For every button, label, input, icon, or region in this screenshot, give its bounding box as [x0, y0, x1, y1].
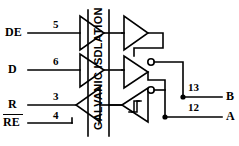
pin-number-13: 13 — [188, 82, 199, 93]
driver-buffer-bubble — [148, 59, 154, 65]
output-label-a: A — [226, 110, 235, 122]
re-overbar — [3, 114, 23, 115]
junction-dot-b — [180, 94, 185, 99]
input-label-de: DE — [5, 26, 22, 38]
receiver-schmitt-body — [122, 88, 148, 122]
input-label-re: RE — [3, 116, 20, 128]
galvanic-isolation-transceiver-diagram: GALVANIC ISDLATION DE D R RE 5 6 3 4 13 … — [0, 0, 239, 146]
pin-number-12: 12 — [188, 102, 199, 113]
enable-buffer-body — [124, 16, 148, 50]
output-label-b: B — [226, 90, 234, 102]
circuit-schematic — [0, 0, 239, 146]
wire-driver-out-a — [148, 72, 165, 117]
junction-dot-a — [162, 114, 167, 119]
input-label-r: R — [8, 98, 17, 110]
pin-number-5: 5 — [53, 19, 59, 30]
receiver-bubble — [148, 87, 154, 93]
pin-number-4: 4 — [53, 110, 59, 121]
driver-buffer-body — [124, 56, 148, 88]
input-label-d: D — [8, 63, 17, 75]
wire-enable-out — [134, 33, 163, 56]
pin-number-6: 6 — [53, 56, 59, 67]
pin-number-3: 3 — [53, 91, 59, 102]
barrier-label: GALVANIC ISDLATION — [92, 18, 104, 130]
